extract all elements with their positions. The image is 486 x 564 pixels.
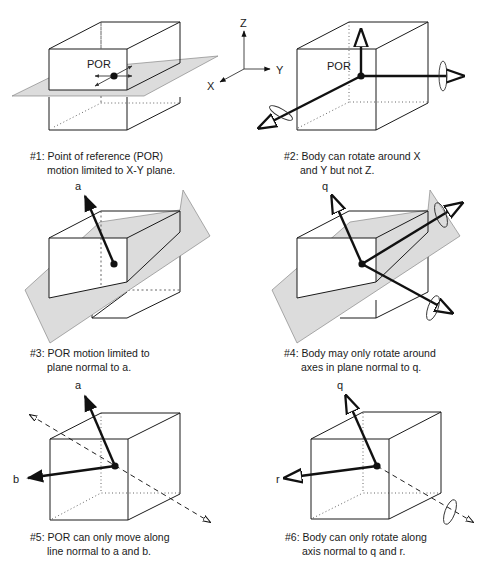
caption-1-line1: #1: Point of reference (POR) [30, 150, 163, 162]
panel-1: POR #1: Point of reference (POR) motion … [12, 22, 218, 176]
por-label-1: POR [87, 58, 111, 70]
constraint-diagram: POR #1: Point of reference (POR) motion … [0, 0, 486, 564]
caption-1-line2: motion limited to X-Y plane. [47, 164, 175, 176]
caption-2-line1: #2: Body can rotate around X [284, 150, 421, 162]
axis-label-z: Z [240, 17, 247, 29]
vector-label-r-6: r [276, 473, 280, 485]
axis-label-y: Y [276, 64, 284, 76]
caption-4-line2: axes in plane normal to q. [301, 361, 421, 373]
vector-label-b-5: b [13, 473, 19, 485]
axis-label-x: X [207, 80, 215, 92]
caption-3-line2: plane normal to a. [47, 361, 131, 373]
por-label-2: POR [327, 60, 351, 72]
vector-label-a-5: a [75, 379, 82, 391]
panel-3: a #3: POR motion limited to plane normal… [25, 180, 210, 373]
vector-label-a-3: a [75, 180, 82, 192]
caption-3-line1: #3: POR motion limited to [30, 347, 150, 359]
vector-label-q-6: q [337, 379, 343, 391]
caption-5-line2: line normal to a and b. [47, 545, 151, 557]
coordinate-axes: Z Y X [207, 17, 284, 92]
caption-2-line2: and Y but not Z. [300, 164, 374, 176]
caption-6-line1: #6: Body can only rotate along [285, 531, 427, 543]
panel-4: q #4: Body may only rotate around axes i… [272, 180, 462, 373]
vector-label-q-4: q [322, 180, 328, 192]
caption-4-line1: #4: Body may only rotate around [284, 347, 436, 359]
panel-5: a b #5: POR can only move along line nor… [13, 379, 210, 557]
caption-5-line1: #5: POR can only move along [30, 531, 170, 543]
panel-2: POR #2: Body can rotate around X and Y b… [259, 22, 463, 176]
caption-6-line2: axis normal to q and r. [302, 545, 405, 557]
panel-6: q r #6: Body can only rotate along axis … [276, 379, 473, 557]
